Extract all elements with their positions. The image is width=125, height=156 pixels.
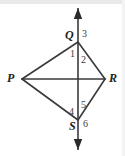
- vertex-label-p: P: [7, 72, 14, 84]
- arrow-down-icon: [74, 139, 82, 150]
- vertex-label-s: S: [69, 120, 76, 132]
- segments-group: [22, 42, 105, 120]
- angle-label-4: 4: [69, 107, 74, 117]
- geometry-canvas: [0, 0, 125, 156]
- vertex-label-r: R: [109, 72, 117, 84]
- angle-label-3: 3: [82, 29, 87, 39]
- angle-label-2: 2: [81, 55, 86, 65]
- angle-label-1: 1: [70, 49, 75, 59]
- angle-label-5: 5: [81, 100, 86, 110]
- geometry-figure: P Q R S 1 2 3 4 5 6: [0, 0, 125, 156]
- vertex-label-q: Q: [65, 29, 74, 41]
- angle-label-6: 6: [83, 119, 88, 129]
- arrow-up-icon: [74, 8, 82, 19]
